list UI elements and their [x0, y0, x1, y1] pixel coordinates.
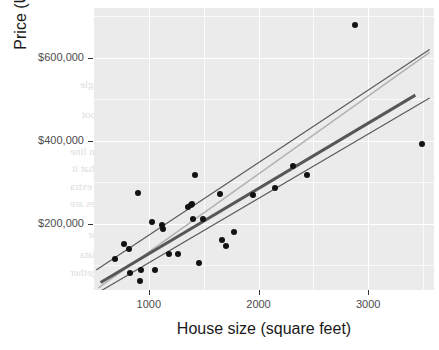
- y-axis-title: Price (USD): [10, 0, 32, 152]
- chart-figure: ear regression in Ran do linear regressi…: [0, 0, 439, 350]
- data-point: [250, 192, 256, 198]
- data-point: [352, 22, 358, 28]
- y-tick-mark: [88, 58, 93, 59]
- main-regression-line: [101, 95, 416, 282]
- x-axis-title: House size (square feet): [94, 320, 434, 338]
- y-tick-label: $600,000: [0, 51, 84, 63]
- data-point: [192, 172, 198, 178]
- data-point: [160, 226, 166, 232]
- y-tick-mark: [88, 224, 93, 225]
- data-point: [149, 219, 155, 225]
- data-point: [290, 163, 296, 169]
- data-point: [190, 216, 196, 222]
- x-tick-mark: [368, 290, 369, 295]
- x-tick-label: 3000: [338, 298, 398, 310]
- data-point: [419, 141, 425, 147]
- data-point: [137, 278, 143, 284]
- y-tick-mark: [88, 141, 93, 142]
- upper-fit-line: [96, 49, 429, 270]
- x-tick-label: 1000: [119, 298, 179, 310]
- data-point: [126, 246, 132, 252]
- plot-panel: [94, 8, 434, 290]
- x-tick-mark: [259, 290, 260, 295]
- lower-fit-line: [99, 98, 430, 290]
- data-point: [127, 270, 133, 276]
- y-tick-label: $200,000: [0, 217, 84, 229]
- x-tick-label: 2000: [229, 298, 289, 310]
- y-tick-label: $400,000: [0, 134, 84, 146]
- data-point: [112, 256, 118, 262]
- data-point: [217, 191, 223, 197]
- data-point: [189, 201, 195, 207]
- data-point: [200, 216, 206, 222]
- data-point: [135, 190, 141, 196]
- x-tick-mark: [149, 290, 150, 295]
- regression-lines: [94, 8, 434, 290]
- data-point: [166, 251, 172, 257]
- data-point: [304, 172, 310, 178]
- data-point: [175, 251, 181, 257]
